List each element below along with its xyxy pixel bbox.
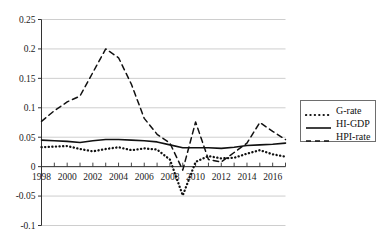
- legend-swatch-dashed: [305, 132, 332, 142]
- legend-label-g-rate: G-rate: [336, 106, 362, 116]
- chart-legend: G-rate HI-GDP HPI-rate: [300, 100, 376, 142]
- chart-container: 0.250.20.150.10.050-0.05-0.1199820002002…: [0, 0, 386, 241]
- x-axis-tick-label: 2002: [83, 172, 102, 182]
- y-axis-tick-label: 0.05: [19, 133, 36, 143]
- x-axis-tick-label: 2004: [109, 172, 128, 182]
- y-axis-tick-label: 0.2: [24, 44, 36, 54]
- x-axis-tick-label: 2012: [212, 172, 231, 182]
- legend-swatch-solid: [305, 119, 332, 129]
- legend-swatch-dotted: [305, 106, 332, 116]
- legend-item-hpi-rate: HPI-rate: [305, 130, 371, 143]
- legend-item-hi-gdp: HI-GDP: [305, 117, 371, 130]
- x-axis-tick-label: 2006: [135, 172, 154, 182]
- y-axis-tick-label: -0.05: [16, 191, 36, 201]
- x-axis-tick-label: 1998: [32, 172, 51, 182]
- x-axis-tick-label: 2014: [237, 172, 256, 182]
- x-axis-tick-label: 2016: [263, 172, 282, 182]
- y-axis-tick-label: 0.25: [19, 15, 36, 25]
- y-axis-tick-label: 0: [31, 162, 36, 172]
- y-axis-tick-label: 0.1: [24, 103, 36, 113]
- legend-label-hpi-rate: HPI-rate: [336, 132, 370, 142]
- legend-label-hi-gdp: HI-GDP: [336, 119, 370, 129]
- legend-item-g-rate: G-rate: [305, 104, 371, 117]
- y-axis-tick-label: 0.15: [19, 74, 36, 84]
- x-axis-tick-label: 2000: [58, 172, 77, 182]
- y-axis-tick-label: -0.1: [20, 221, 35, 231]
